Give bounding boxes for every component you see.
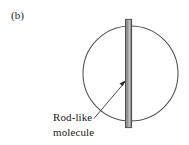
figure-panel-b: (b) Rod-like molecule [0,0,189,145]
annotation-line-2: molecule [53,126,94,138]
figure-graphic: Rod-like molecule [0,0,189,145]
rod-highlight-stripe [128,19,130,128]
annotation-line-1: Rod-like [53,111,92,123]
rod-like-molecule-shape [125,19,132,128]
